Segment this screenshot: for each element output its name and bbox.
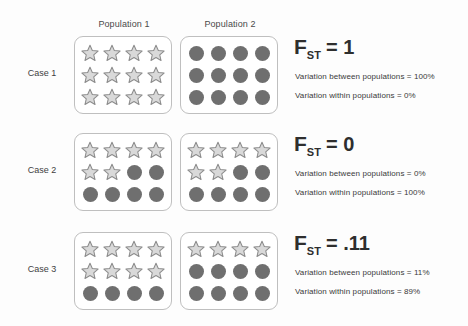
- circle-icon: [251, 260, 273, 282]
- variation-within-case-2: Variation within populations = 100%: [295, 188, 425, 197]
- star-icon: [145, 238, 167, 260]
- organism-row: [185, 161, 273, 183]
- circle-icon: [229, 161, 251, 183]
- circle-shape: [149, 165, 164, 180]
- circle-shape: [105, 187, 120, 202]
- circle-icon: [207, 260, 229, 282]
- circle-icon: [123, 183, 145, 205]
- organism-row: [185, 139, 273, 161]
- fst-subscript-case-3: ST: [307, 245, 321, 257]
- star-icon: [207, 238, 229, 260]
- column-header-population-2: Population 2: [178, 19, 282, 29]
- star-icon: [185, 238, 207, 260]
- circle-shape: [233, 165, 248, 180]
- star-icon: [101, 64, 123, 86]
- population-box-case2-pop2: [180, 133, 278, 211]
- circle-shape: [233, 264, 248, 279]
- variation-between-case-2: Variation between populations = 0%: [295, 169, 426, 178]
- circle-icon: [145, 183, 167, 205]
- star-icon: [79, 64, 101, 86]
- star-icon: [229, 139, 251, 161]
- circle-shape: [83, 286, 98, 301]
- star-icon: [145, 64, 167, 86]
- circle-shape: [211, 68, 226, 83]
- circle-shape: [233, 90, 248, 105]
- fst-subscript-case-2: ST: [307, 146, 321, 158]
- star-icon: [123, 64, 145, 86]
- organism-row: [185, 86, 273, 108]
- star-icon: [251, 238, 273, 260]
- circle-shape: [189, 90, 204, 105]
- star-icon: [145, 86, 167, 108]
- organism-row: [185, 64, 273, 86]
- star-icon: [145, 260, 167, 282]
- circle-icon: [123, 282, 145, 304]
- organism-row: [185, 183, 273, 205]
- circle-shape: [255, 286, 270, 301]
- circle-shape: [211, 187, 226, 202]
- star-icon: [123, 42, 145, 64]
- circle-shape: [255, 68, 270, 83]
- organism-grid-case3-pop2: [181, 233, 277, 309]
- circle-icon: [229, 42, 251, 64]
- circle-shape: [127, 165, 142, 180]
- fst-value-case-1: = 1: [326, 36, 354, 58]
- star-icon: [123, 238, 145, 260]
- circle-icon: [207, 64, 229, 86]
- star-icon: [123, 86, 145, 108]
- fst-value-case-3: = .11: [326, 232, 370, 254]
- circle-icon: [229, 183, 251, 205]
- circle-icon: [229, 86, 251, 108]
- organism-grid-case1-pop2: [181, 37, 277, 113]
- fst-subscript-case-1: ST: [307, 49, 321, 61]
- circle-icon: [251, 64, 273, 86]
- circle-icon: [185, 282, 207, 304]
- circle-icon: [229, 260, 251, 282]
- variation-between-case-3: Variation between populations = 11%: [295, 268, 430, 277]
- star-icon: [79, 260, 101, 282]
- circle-shape: [255, 165, 270, 180]
- circle-icon: [207, 282, 229, 304]
- circle-icon: [185, 42, 207, 64]
- organism-row: [79, 42, 167, 64]
- organism-row: [79, 161, 167, 183]
- circle-shape: [233, 187, 248, 202]
- circle-shape: [189, 264, 204, 279]
- variation-within-case-3: Variation within populations = 89%: [295, 287, 420, 296]
- circle-icon: [229, 64, 251, 86]
- circle-shape: [211, 264, 226, 279]
- fst-symbol-case-2: F: [294, 132, 307, 155]
- star-icon: [79, 238, 101, 260]
- column-header-population-1: Population 1: [72, 19, 176, 29]
- star-icon: [101, 238, 123, 260]
- star-icon: [207, 139, 229, 161]
- circle-icon: [207, 42, 229, 64]
- organism-row: [79, 260, 167, 282]
- population-box-case2-pop1: [74, 133, 172, 211]
- population-box-case3-pop1: [74, 232, 172, 310]
- star-icon: [101, 161, 123, 183]
- population-box-case1-pop1: [74, 36, 172, 114]
- circle-shape: [255, 187, 270, 202]
- star-icon: [79, 161, 101, 183]
- organism-row: [79, 183, 167, 205]
- circle-icon: [79, 183, 101, 205]
- circle-icon: [229, 282, 251, 304]
- population-box-case3-pop2: [180, 232, 278, 310]
- circle-shape: [211, 90, 226, 105]
- circle-icon: [185, 183, 207, 205]
- circle-icon: [79, 282, 101, 304]
- variation-between-case-1: Variation between populations = 100%: [295, 72, 435, 81]
- organism-row: [185, 42, 273, 64]
- fst-value-case-2: = 0: [326, 133, 354, 155]
- circle-shape: [233, 286, 248, 301]
- star-icon: [101, 42, 123, 64]
- circle-icon: [145, 282, 167, 304]
- fst-formula-case-2: FST= 0: [294, 133, 354, 158]
- circle-shape: [211, 46, 226, 61]
- organism-row: [79, 64, 167, 86]
- circle-icon: [185, 86, 207, 108]
- star-icon: [185, 161, 207, 183]
- star-icon: [145, 139, 167, 161]
- circle-shape: [189, 187, 204, 202]
